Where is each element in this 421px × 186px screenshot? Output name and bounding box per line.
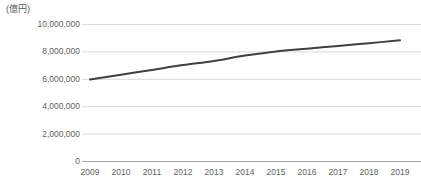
x-axis-tick-label: 2019 [391, 168, 410, 177]
x-axis-tick-label: 2012 [174, 168, 193, 177]
x-axis-tick-label: 2016 [298, 168, 317, 177]
x-axis-tick-label: 2009 [81, 168, 100, 177]
data-series [90, 40, 400, 79]
y-axis-tick-label: 10,000,000 [37, 20, 80, 29]
series-line [90, 40, 400, 79]
y-axis-tick-label: 0 [75, 157, 80, 166]
x-axis-tick-label: 2011 [143, 168, 161, 177]
y-axis-tick-label: 8,000,000 [42, 47, 80, 56]
x-axis-tick-label: 2017 [329, 168, 348, 177]
line-chart: (億円) 02,000,0004,000,0006,000,0008,000,0… [0, 0, 421, 186]
y-axis-tick-label: 4,000,000 [42, 102, 80, 111]
x-axis-tick-label: 2014 [236, 168, 255, 177]
gridlines [82, 25, 421, 135]
x-axis-tick-label: 2018 [360, 168, 379, 177]
y-axis-tick-label: 6,000,000 [42, 75, 80, 84]
x-axis-tick-label: 2013 [205, 168, 224, 177]
y-axis-tick-label: 2,000,000 [42, 129, 80, 138]
x-axis-tick-label: 2010 [112, 168, 131, 177]
x-axis-tick-label: 2015 [267, 168, 286, 177]
